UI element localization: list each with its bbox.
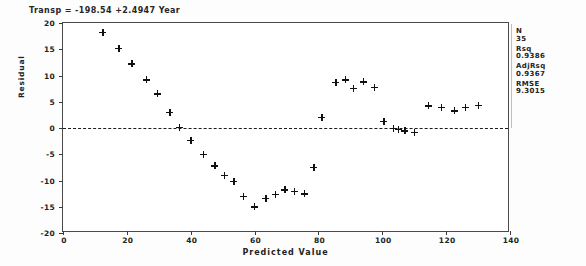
data-point <box>230 178 237 185</box>
data-point <box>380 118 387 125</box>
data-point <box>166 109 173 116</box>
y-axis-tick-label: 15 <box>44 45 55 54</box>
x-axis-tick: 60 <box>255 231 256 235</box>
data-point <box>128 60 135 67</box>
x-axis-title: Predicted Value <box>62 248 509 257</box>
data-point <box>401 127 408 134</box>
statistics-panel: N 35 Rsq 0.9386 AdjRsq 0.9367 RMSE 9.301… <box>516 28 582 98</box>
x-axis-tick-label: 40 <box>186 236 197 245</box>
x-axis-tick-label: 140 <box>503 236 520 245</box>
data-point <box>251 203 258 210</box>
data-point <box>115 45 122 52</box>
data-point <box>371 84 378 91</box>
data-point <box>318 114 325 121</box>
data-point <box>350 85 357 92</box>
data-point <box>310 164 317 171</box>
data-point <box>475 102 482 109</box>
data-point <box>438 104 445 111</box>
x-axis-tick-label: 80 <box>314 236 325 245</box>
y-axis-tick-label: 10 <box>44 72 55 81</box>
stat-rsq-value: 0.9386 <box>516 53 582 61</box>
data-point <box>143 76 150 83</box>
stat-rmse-value: 9.3015 <box>516 88 582 96</box>
y-axis-tick-label: -5 <box>46 150 55 159</box>
data-point <box>291 188 298 195</box>
stats-panel-divider <box>511 24 512 128</box>
y-axis-tick: -10 <box>59 181 63 182</box>
data-point <box>187 137 194 144</box>
data-point <box>176 124 183 131</box>
stat-rsq: Rsq 0.9386 <box>516 46 582 61</box>
data-point <box>262 195 269 202</box>
y-axis-tick: 0 <box>59 128 63 129</box>
x-axis-tick: 140 <box>510 231 511 235</box>
data-point <box>425 102 432 109</box>
data-point <box>272 191 279 198</box>
data-point <box>342 76 349 83</box>
y-axis-tick: 15 <box>59 49 63 50</box>
stat-adj-rsq: AdjRsq 0.9367 <box>516 63 582 78</box>
x-axis-tick: 80 <box>318 231 319 235</box>
y-axis-tick: 10 <box>59 76 63 77</box>
data-point <box>411 129 418 136</box>
regression-equation-title: Transp = -198.54 +2.4947 Year <box>29 6 180 15</box>
plot-frame: 20151050-5-10-15-20 020406080100120140 <box>62 22 509 232</box>
stat-n: N 35 <box>516 28 582 43</box>
zero-reference-line <box>63 128 508 129</box>
x-axis-tick: 40 <box>191 231 192 235</box>
y-axis-tick-label: -20 <box>41 229 55 238</box>
data-point <box>462 104 469 111</box>
y-axis-title: Residual <box>17 55 26 98</box>
data-point <box>360 78 367 85</box>
y-axis-tick-label: 0 <box>49 124 55 133</box>
data-point <box>240 193 247 200</box>
y-axis-tick-label: 20 <box>44 19 55 28</box>
y-axis-tick-label: -10 <box>41 177 55 186</box>
data-point <box>211 162 218 169</box>
x-axis-tick: 120 <box>446 231 447 235</box>
y-axis-tick: -5 <box>59 154 63 155</box>
data-point <box>281 186 288 193</box>
residual-plot-figure: Transp = -198.54 +2.4947 Year 20151050-5… <box>0 0 586 266</box>
x-axis-tick-label: 120 <box>439 236 456 245</box>
x-axis-tick-label: 60 <box>250 236 261 245</box>
stat-rmse: RMSE 9.3015 <box>516 81 582 96</box>
y-axis-tick-label: 5 <box>49 98 55 107</box>
data-point <box>99 29 106 36</box>
data-point <box>154 90 161 97</box>
stat-n-value: 35 <box>516 36 582 44</box>
data-point <box>451 107 458 114</box>
x-axis-tick-label: 0 <box>61 236 67 245</box>
x-axis-tick: 20 <box>127 231 128 235</box>
stat-adj-rsq-value: 0.9367 <box>516 71 582 79</box>
y-axis-tick: 20 <box>59 23 63 24</box>
data-point <box>200 151 207 158</box>
data-point <box>332 79 339 86</box>
x-axis-tick: 100 <box>382 231 383 235</box>
data-point <box>301 190 308 197</box>
data-point <box>221 172 228 179</box>
y-axis-tick-label: -15 <box>41 203 55 212</box>
x-axis-tick: 0 <box>63 231 64 235</box>
x-axis-tick-label: 100 <box>375 236 392 245</box>
y-axis-tick: -15 <box>59 207 63 208</box>
x-axis-tick-label: 20 <box>122 236 133 245</box>
y-axis-tick: 5 <box>59 102 63 103</box>
plot-surface <box>63 23 508 231</box>
